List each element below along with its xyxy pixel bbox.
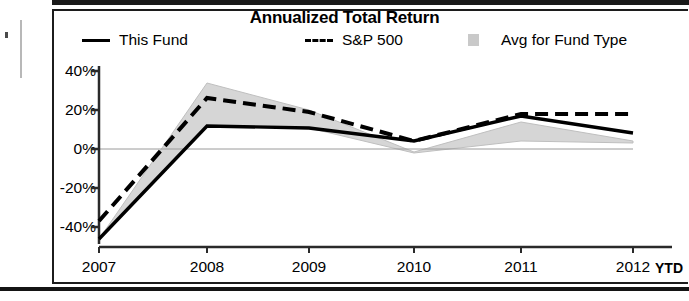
x-tick-label: 2009 — [292, 258, 326, 276]
x-tick-label: 2007 — [82, 258, 116, 276]
x-tick-label: 2011 — [504, 258, 537, 276]
x-tick-label: 2010 — [397, 258, 431, 276]
plot-area — [0, 0, 689, 301]
chart-figure: Annualized Total Return This Fund S&P 50… — [0, 0, 689, 301]
scan-bottom-bar — [0, 287, 689, 291]
x-axis-ytd-label: YTD — [655, 260, 689, 276]
avg-fund-type-band — [99, 83, 633, 239]
x-tick-label: 2008 — [190, 258, 224, 276]
x-tick-label: 2012 — [616, 258, 650, 276]
series-line-sp500 — [99, 98, 633, 221]
